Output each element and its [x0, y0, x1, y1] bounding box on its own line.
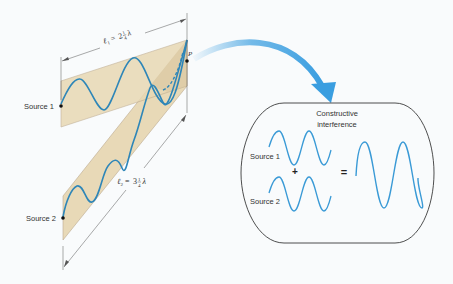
svg-text:=: =	[125, 177, 130, 186]
inset-title-line2: interference	[317, 120, 357, 129]
source-1-dot	[59, 104, 63, 108]
point-p-dot	[185, 59, 189, 63]
curved-arrow	[194, 42, 336, 103]
point-p-label: P	[187, 50, 193, 58]
svg-text:4: 4	[138, 183, 141, 188]
equals-sign: =	[341, 166, 347, 178]
plus-sign: +	[292, 166, 298, 177]
svg-text:=: =	[109, 33, 117, 43]
inset-source-2-label: Source 2	[250, 197, 280, 206]
svg-text:3: 3	[133, 177, 137, 186]
inset-title-line1: Constructive	[316, 109, 358, 118]
inset-panel: Constructive interference Source 1 + Sou…	[241, 103, 434, 243]
interference-diagram: ℓ 1 = 2 1 4 λ ℓ 2 = 3 1 4 λ Source 1 Sou…	[0, 0, 453, 284]
path-length-1-label: ℓ 1 = 2 1 4 λ	[102, 28, 133, 47]
source-1-label: Source 1	[24, 102, 54, 111]
inset-source-1-label: Source 1	[250, 152, 280, 161]
svg-text:1: 1	[138, 177, 141, 182]
source-2-dot	[61, 216, 65, 220]
svg-text:2: 2	[121, 182, 124, 187]
source-2-label: Source 2	[26, 214, 56, 223]
path-length-2-label: ℓ 2 = 3 1 4 λ	[117, 177, 147, 188]
svg-text:λ: λ	[142, 177, 147, 186]
